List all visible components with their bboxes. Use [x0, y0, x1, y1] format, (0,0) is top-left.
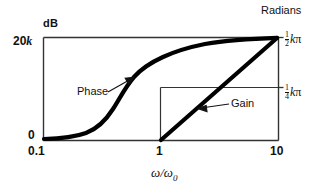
pi-symbol: π [295, 32, 301, 46]
bode-plot-figure: dB Radians 20k 0 0.1 1 10 ω/ω0 1 2 kπ 1 … [0, 0, 321, 190]
fraction-denominator: 2 [285, 39, 289, 48]
x-axis-title-subscript: 0 [173, 173, 178, 183]
x-axis-tick-label-0: 0.1 [28, 145, 45, 157]
gain-curve-label: Gain [231, 98, 254, 109]
x-axis-tick-label-1: 1 [156, 145, 163, 157]
quarter-kpi-unit: kπ [290, 85, 301, 100]
x-axis-title: ω/ω0 [151, 166, 177, 183]
x-axis-tick-label-2: 10 [270, 145, 283, 157]
right-axis-ticks [279, 38, 284, 88]
gain-curve [161, 38, 277, 140]
y-axis-right-tick-label-quarter: 1 4 kπ [285, 84, 301, 101]
x-axis-title-main: ω/ω [151, 165, 173, 180]
half-kpi-unit: kπ [290, 32, 301, 47]
y-axis-top-tick-value: 20 [13, 34, 26, 48]
pi-symbol: π [295, 85, 301, 99]
y-axis-top-tick-label: 20k [13, 35, 32, 47]
y-axis-left-title: dB [43, 18, 58, 29]
reference-lines [161, 88, 279, 141]
y-axis-zero-tick-label: 0 [28, 129, 35, 141]
y-axis-top-tick-unit: k [26, 34, 32, 48]
phase-curve-label: Phase [77, 86, 108, 97]
fraction-numerator: 1 [285, 84, 289, 92]
fraction-denominator: 4 [285, 92, 289, 101]
fraction-numerator: 1 [285, 31, 289, 39]
fraction-one-quarter: 1 4 [285, 84, 289, 101]
y-axis-right-title: Radians [261, 5, 301, 16]
y-axis-right-tick-label-half: 1 2 kπ [285, 31, 301, 48]
fraction-one-half: 1 2 [285, 31, 289, 48]
